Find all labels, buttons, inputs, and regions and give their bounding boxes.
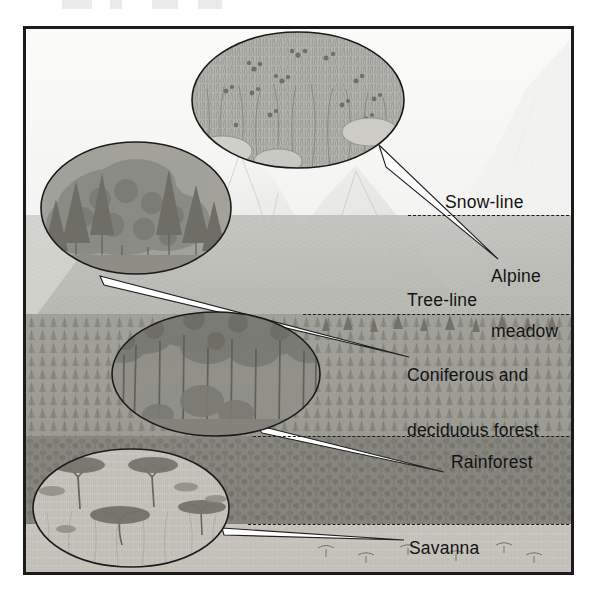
zone-label-savanna: Savanna	[409, 539, 480, 557]
coniferous-deciduous-callout	[41, 142, 231, 275]
zone-label-rainforest: Rainforest	[451, 453, 533, 471]
boundary-snow-line	[408, 215, 571, 216]
boundary-savanna	[248, 524, 571, 525]
scan-remnant	[152, 0, 178, 9]
scan-remnant	[110, 0, 122, 9]
figure-canvas: Snow-line Alpine meadow Tree-line Conife…	[0, 0, 597, 604]
illustration-artwork	[26, 29, 571, 572]
savanna-callout	[33, 449, 229, 567]
zone-label-alpine-meadow-line1: Alpine	[491, 267, 558, 285]
scan-remnant	[62, 0, 92, 9]
zone-label-tree-line: Tree-line	[407, 291, 477, 309]
zone-label-coniferous-line1: Coniferous and	[407, 366, 539, 384]
scan-remnant	[198, 0, 222, 9]
zone-label-coniferous-line2: deciduous forest	[407, 421, 539, 439]
illustration-panel: Snow-line Alpine meadow Tree-line Conife…	[23, 26, 574, 575]
zone-label-snow-line: Snow-line	[445, 193, 524, 211]
